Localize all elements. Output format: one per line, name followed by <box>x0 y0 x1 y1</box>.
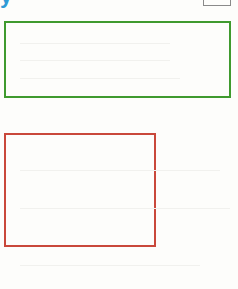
faint-line <box>20 208 230 209</box>
red-rectangle <box>4 133 156 247</box>
faint-line <box>20 265 200 266</box>
faint-line <box>20 43 170 44</box>
answer-box <box>203 0 231 6</box>
faint-line <box>20 60 170 61</box>
faint-line <box>20 78 180 79</box>
header-glyph: y <box>0 0 12 6</box>
faint-line <box>20 170 220 171</box>
